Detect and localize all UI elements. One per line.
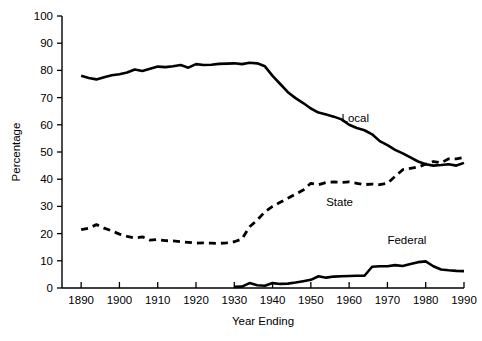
series-labels: LocalStateFederal [326,112,426,246]
series-label-local: Local [341,112,369,124]
x-tick-label: 1890 [68,294,94,306]
series-label-federal: Federal [387,234,426,246]
y-tick-label: 80 [40,64,53,76]
chart-container: 0102030405060708090100 18901900191019201… [0,0,482,341]
x-tick-label: 1940 [260,294,286,306]
series-lines [81,63,464,287]
x-tick-label: 1950 [298,294,324,306]
y-axis-title: Percentage [10,123,22,182]
x-axis-title: Year Ending [232,315,294,327]
line-chart: 0102030405060708090100 18901900191019201… [0,0,482,341]
y-tick-label: 10 [40,255,53,267]
x-tick-label: 1970 [375,294,401,306]
y-axis: 0102030405060708090100 [34,10,62,294]
y-tick-label: 30 [40,200,53,212]
y-tick-label: 100 [34,10,53,22]
series-label-state: State [326,196,353,208]
y-tick-label: 70 [40,92,53,104]
series-line-state [81,157,464,243]
x-tick-label: 1990 [451,294,477,306]
x-tick-label: 1900 [107,294,133,306]
x-tick-label: 1910 [145,294,171,306]
y-tick-label: 0 [47,282,53,294]
y-tick-label: 40 [40,173,53,185]
y-tick-label: 60 [40,119,53,131]
y-tick-label: 90 [40,37,53,49]
x-tick-label: 1930 [221,294,247,306]
series-line-local [81,63,464,166]
x-tick-label: 1920 [183,294,209,306]
y-tick-label: 20 [40,228,53,240]
x-tick-label: 1980 [413,294,439,306]
x-tick-label: 1960 [336,294,362,306]
y-tick-label: 50 [40,146,53,158]
